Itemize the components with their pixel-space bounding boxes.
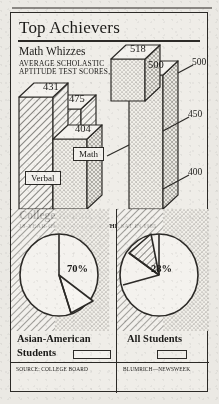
legend-verbal: Verbal [25,171,61,185]
group-label-all-students: All Students [127,333,182,344]
bar-value-500: 500 [148,59,164,70]
group-divider [116,209,117,393]
axis-tick-450: 450 [188,109,202,119]
legend-math: Math [73,147,104,161]
infographic-page: Top Achievers Math Whizzes AVERAGE SCHOL… [0,0,219,404]
bar-value-518: 518 [130,43,146,54]
legend-swatch-left [73,350,111,359]
legend-swatch-right [157,350,187,359]
bar-value-431: 431 [43,81,59,92]
axis-tick-400: 400 [188,167,202,177]
pie-charts [11,209,209,369]
axis-tick-500: 500 [192,57,206,67]
footer-divider [11,362,209,363]
chart-frame: Top Achievers Math Whizzes AVERAGE SCHOL… [10,12,208,392]
page-crop-rule [12,0,212,9]
pie-value-right: 28% [151,263,172,274]
artist-credit: BLUMRICH—NEWSWEEK [123,366,190,372]
source-credit: SOURCE: COLLEGE BOARD [16,366,88,372]
group-label-asian-american-line1: Asian-American [17,333,91,344]
bar-value-404: 404 [75,123,91,134]
bar-value-475: 475 [69,93,85,104]
bar-chart [11,13,209,218]
pie-value-left: 70% [67,263,88,274]
group-label-asian-american-line2: Students [17,347,56,358]
